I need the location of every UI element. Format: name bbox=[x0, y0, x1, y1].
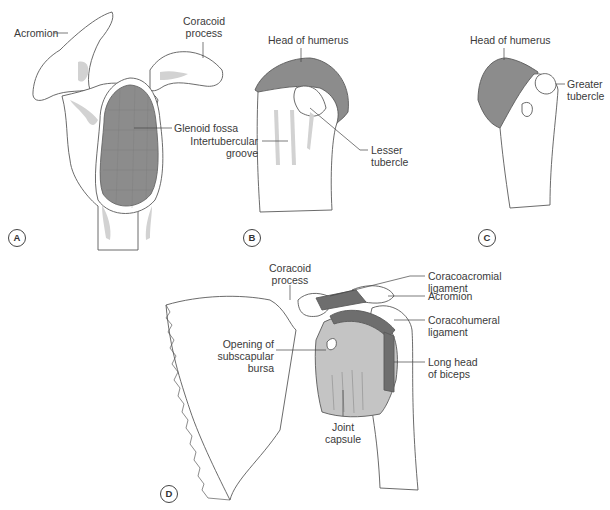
label-acromion-d: Acromion bbox=[428, 290, 472, 302]
label-subscapular-bursa: Opening of subscapular bursa bbox=[200, 338, 274, 374]
panel-c-humerus bbox=[478, 58, 558, 208]
panel-a-badge: A bbox=[8, 229, 26, 247]
label-greater-tubercle: Greater tubercle bbox=[567, 78, 604, 102]
panel-c-badge: C bbox=[478, 229, 496, 247]
label-coracoid-process-a: Coracoid process bbox=[180, 15, 228, 39]
label-glenoid-fossa: Glenoid fossa bbox=[174, 122, 238, 134]
label-head-of-humerus-c: Head of humerus bbox=[470, 34, 551, 46]
label-coracoid-process-d: Coracoid process bbox=[266, 262, 314, 286]
label-coracohumeral-ligament: Coracohumeral ligament bbox=[428, 314, 500, 338]
label-joint-capsule: Joint capsule bbox=[320, 421, 366, 445]
panel-d-badge: D bbox=[160, 485, 178, 503]
label-long-head-of-biceps: Long head of biceps bbox=[428, 356, 478, 380]
panel-d-joint bbox=[166, 286, 418, 500]
shoulder-anatomy-illustration bbox=[0, 0, 610, 510]
label-acromion-a: Acromion bbox=[14, 27, 58, 39]
panel-b-humerus bbox=[255, 58, 348, 212]
label-lesser-tubercle: Lesser tubercle bbox=[371, 144, 408, 168]
label-intertubercular-groove: Intertubercular groove bbox=[180, 135, 258, 159]
panel-b-badge: B bbox=[243, 229, 261, 247]
label-head-of-humerus-b: Head of humerus bbox=[268, 34, 349, 46]
